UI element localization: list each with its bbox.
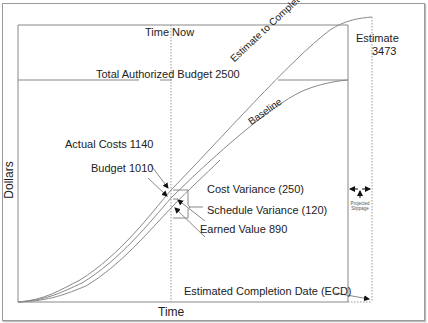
y-axis-label: Dollars bbox=[3, 161, 15, 198]
estimate-value: 3473 bbox=[372, 45, 396, 57]
budget-label: Budget 1010 bbox=[91, 162, 153, 174]
schedule-variance-label: Schedule Variance (120) bbox=[207, 204, 327, 216]
estimate-label: Estimate bbox=[356, 32, 399, 44]
actual-costs-label: Actual Costs 1140 bbox=[65, 138, 153, 150]
cost-variance-label: Cost Variance (250) bbox=[207, 183, 304, 195]
total-budget-label: Total Authorized Budget 2500 bbox=[96, 68, 240, 80]
earned-value-curve bbox=[18, 160, 220, 302]
x-axis-label: Time bbox=[158, 306, 184, 318]
slippage-label: Projected Slippage bbox=[349, 201, 371, 211]
earned-value-label: Earned Value 890 bbox=[200, 223, 287, 235]
ecd-label: Estimated Completion Date (ECD) bbox=[184, 285, 352, 297]
etc-curve bbox=[18, 17, 372, 302]
time-now-label: Time Now bbox=[145, 26, 194, 38]
evm-diagram bbox=[0, 0, 428, 323]
